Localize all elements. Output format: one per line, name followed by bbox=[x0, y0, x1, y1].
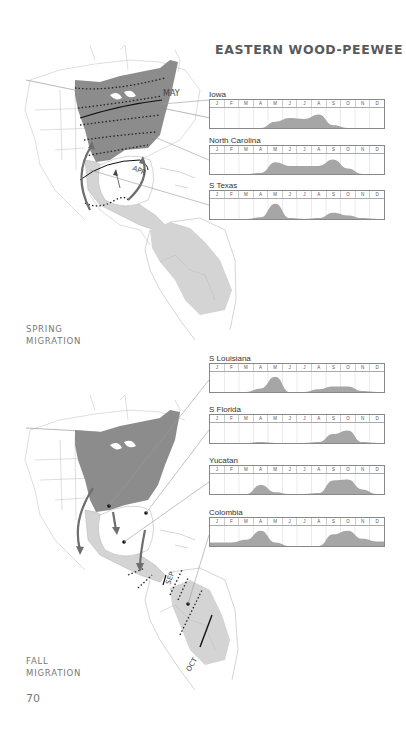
month-label: O bbox=[341, 146, 356, 153]
month-label: J bbox=[283, 518, 298, 525]
month-label: O bbox=[341, 364, 356, 371]
month-label: J bbox=[297, 364, 312, 371]
month-label: J bbox=[283, 364, 298, 371]
month-label: S bbox=[327, 191, 342, 198]
month-label: M bbox=[268, 364, 283, 371]
month-label: F bbox=[225, 415, 240, 422]
month-label: A bbox=[312, 518, 327, 525]
month-label: M bbox=[239, 100, 254, 107]
month-axis: JFMAMJJASOND bbox=[210, 191, 384, 199]
month-label: F bbox=[225, 100, 240, 107]
month-label: N bbox=[356, 518, 371, 525]
month-label: M bbox=[239, 415, 254, 422]
chart-title: North Carolina bbox=[209, 136, 384, 145]
month-label: J bbox=[210, 466, 225, 473]
month-label: J bbox=[210, 518, 225, 525]
month-label: F bbox=[225, 191, 240, 198]
may-label: MAY bbox=[163, 89, 180, 98]
chart-yucatan: Yucatan JFMAMJJASOND bbox=[209, 456, 384, 495]
month-label: D bbox=[370, 100, 384, 107]
month-label: N bbox=[356, 364, 371, 371]
month-label: A bbox=[254, 100, 269, 107]
month-label: D bbox=[370, 466, 384, 473]
fall-migration-label: FALL MIGRATION bbox=[26, 655, 81, 679]
abundance-plot bbox=[210, 108, 384, 128]
chart-s-florida: S Florida JFMAMJJASOND bbox=[209, 405, 384, 444]
sep-label: SEP bbox=[164, 571, 176, 586]
month-label: A bbox=[254, 415, 269, 422]
month-label: J bbox=[283, 466, 298, 473]
month-label: A bbox=[254, 364, 269, 371]
month-label: A bbox=[312, 100, 327, 107]
abundance-plot bbox=[210, 526, 384, 546]
month-label: J bbox=[210, 100, 225, 107]
chart-s-texas: S Texas JFMAMJJASOND bbox=[209, 181, 384, 220]
chart-iowa: Iowa JFMAMJJASOND bbox=[209, 90, 384, 129]
abundance-plot bbox=[210, 199, 384, 219]
month-label: D bbox=[370, 191, 384, 198]
month-label: N bbox=[356, 466, 371, 473]
month-label: F bbox=[225, 146, 240, 153]
month-label: M bbox=[239, 518, 254, 525]
abundance-plot bbox=[210, 474, 384, 494]
month-label: J bbox=[297, 191, 312, 198]
month-label: O bbox=[341, 100, 356, 107]
chart-colombia: Colombia JFMAMJJASOND bbox=[209, 508, 384, 547]
month-label: O bbox=[341, 466, 356, 473]
chart-s-louisiana: S Louisiana JFMAMJJASOND bbox=[209, 354, 384, 393]
month-label: M bbox=[268, 518, 283, 525]
month-label: J bbox=[283, 415, 298, 422]
month-label: O bbox=[341, 191, 356, 198]
chart-title: S Louisiana bbox=[209, 354, 384, 363]
month-axis: JFMAMJJASOND bbox=[210, 415, 384, 423]
chart-title: S Texas bbox=[209, 181, 384, 190]
spring-label-line2: MIGRATION bbox=[26, 335, 81, 347]
month-axis: JFMAMJJASOND bbox=[210, 100, 384, 108]
month-label: M bbox=[239, 191, 254, 198]
month-label: S bbox=[327, 466, 342, 473]
month-axis: JFMAMJJASOND bbox=[210, 518, 384, 526]
fall-label-line1: FALL bbox=[26, 655, 81, 667]
month-axis: JFMAMJJASOND bbox=[210, 466, 384, 474]
chart-title: Colombia bbox=[209, 508, 384, 517]
month-label: M bbox=[268, 191, 283, 198]
spring-label-line1: SPRING bbox=[26, 323, 81, 335]
month-label: S bbox=[327, 364, 342, 371]
month-label: S bbox=[327, 415, 342, 422]
month-label: M bbox=[239, 364, 254, 371]
month-label: S bbox=[327, 100, 342, 107]
oct-label: OCT bbox=[185, 656, 200, 673]
page-number: 70 bbox=[26, 692, 40, 705]
month-label: J bbox=[297, 466, 312, 473]
chart-north-carolina: North Carolina JFMAMJJASOND bbox=[209, 136, 384, 175]
month-label: J bbox=[297, 100, 312, 107]
month-label: J bbox=[297, 415, 312, 422]
month-axis: JFMAMJJASOND bbox=[210, 146, 384, 154]
month-label: A bbox=[254, 466, 269, 473]
month-label: J bbox=[297, 146, 312, 153]
month-label: S bbox=[327, 518, 342, 525]
fall-label-line2: MIGRATION bbox=[26, 667, 81, 679]
abundance-plot bbox=[210, 423, 384, 443]
chart-title: Iowa bbox=[209, 90, 384, 99]
month-label: F bbox=[225, 518, 240, 525]
month-label: A bbox=[254, 518, 269, 525]
month-label: J bbox=[283, 191, 298, 198]
month-label: F bbox=[225, 466, 240, 473]
month-label: M bbox=[239, 466, 254, 473]
month-label: A bbox=[312, 146, 327, 153]
month-label: N bbox=[356, 146, 371, 153]
abundance-plot bbox=[210, 154, 384, 174]
month-label: M bbox=[239, 146, 254, 153]
month-label: J bbox=[210, 364, 225, 371]
month-label: J bbox=[210, 191, 225, 198]
chart-title: Yucatan bbox=[209, 456, 384, 465]
chart-title: S Florida bbox=[209, 405, 384, 414]
breeding-range bbox=[75, 410, 180, 512]
month-label: N bbox=[356, 100, 371, 107]
month-label: D bbox=[370, 518, 384, 525]
month-label: D bbox=[370, 364, 384, 371]
month-label: J bbox=[283, 146, 298, 153]
spring-migration-label: SPRING MIGRATION bbox=[26, 323, 81, 347]
month-label: D bbox=[370, 415, 384, 422]
